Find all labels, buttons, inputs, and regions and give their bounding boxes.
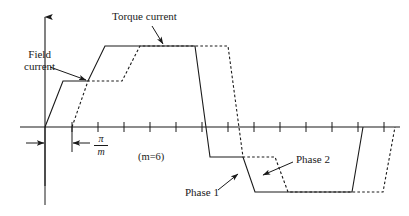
field-current-label-line1: Field	[28, 48, 51, 60]
waveform-svg	[0, 0, 409, 216]
field-current-leader	[50, 67, 86, 80]
pi-numerator: π	[92, 134, 110, 144]
phase-1-waveform	[45, 46, 363, 192]
x-axis	[20, 122, 400, 132]
phase-1-leader	[218, 174, 238, 190]
phase-2-waveform	[72, 46, 395, 192]
phase-1-label: Phase 1	[185, 186, 219, 198]
waveform-figure: Field current Torque current Phase 1 Pha…	[0, 0, 409, 216]
field-current-label-line2: current	[24, 60, 55, 72]
torque-current-label: Torque current	[112, 10, 177, 22]
field-current-label: Field current	[24, 48, 55, 73]
phase-2-label: Phase 2	[296, 153, 330, 165]
m-value-label: (m=6)	[138, 151, 164, 163]
torque-current-leader	[152, 26, 163, 44]
origin-guides	[45, 127, 72, 205]
pi-over-m-label: π m	[92, 134, 110, 157]
m-denominator: m	[92, 147, 110, 157]
